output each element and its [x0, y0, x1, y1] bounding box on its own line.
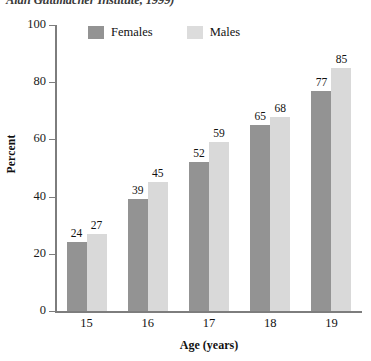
y-axis-tick-label: 0 — [6, 303, 46, 318]
legend-swatch-icon-females — [88, 26, 104, 39]
y-axis-tick-label: 100 — [6, 17, 46, 32]
x-axis-tick-label: 19 — [306, 316, 356, 331]
y-axis-tick — [49, 311, 56, 312]
bar-females-17 — [189, 162, 209, 311]
bar-value-label: 45 — [141, 167, 175, 179]
x-axis-tick-label: 17 — [184, 316, 234, 331]
y-axis-tick — [49, 197, 56, 198]
bar-males-18 — [270, 117, 290, 311]
y-axis-tick — [49, 25, 56, 26]
bar-males-19 — [331, 68, 351, 311]
bar-value-label: 85 — [324, 53, 358, 65]
y-axis-tick-label: 80 — [6, 74, 46, 89]
y-axis-tick — [49, 254, 56, 255]
bar-chart: Percent Age (years) 020406080100 2427394… — [0, 0, 371, 361]
bar-males-16 — [148, 182, 168, 311]
bar-females-16 — [128, 199, 148, 311]
bar-males-17 — [209, 142, 229, 311]
y-axis-tick-label: 40 — [6, 189, 46, 204]
x-axis-tick-label: 16 — [123, 316, 173, 331]
legend-swatch-icon-males — [187, 26, 203, 39]
x-axis-tick-label: 18 — [245, 316, 295, 331]
y-axis-tick-label: 60 — [6, 131, 46, 146]
bar-value-label: 59 — [202, 127, 236, 139]
x-axis-line — [55, 311, 362, 313]
bar-males-15 — [87, 234, 107, 311]
plot-area: 24273945525965687785 — [56, 25, 362, 311]
x-axis-tick-label: 15 — [62, 316, 112, 331]
legend-label-males: Males — [210, 25, 241, 40]
x-axis-title: Age (years) — [56, 338, 362, 353]
legend-item-males: Males — [187, 25, 241, 40]
bar-females-18 — [250, 125, 270, 311]
bar-females-15 — [67, 242, 87, 311]
y-axis-tick — [49, 139, 56, 140]
bar-females-19 — [311, 91, 331, 311]
bar-value-label: 27 — [80, 219, 114, 231]
y-axis-tick — [49, 82, 56, 83]
legend-label-females: Females — [111, 25, 153, 40]
bar-value-label: 68 — [263, 102, 297, 114]
chart-legend: Females Males — [88, 25, 240, 40]
legend-item-females: Females — [88, 25, 153, 40]
y-axis-tick-label: 20 — [6, 246, 46, 261]
